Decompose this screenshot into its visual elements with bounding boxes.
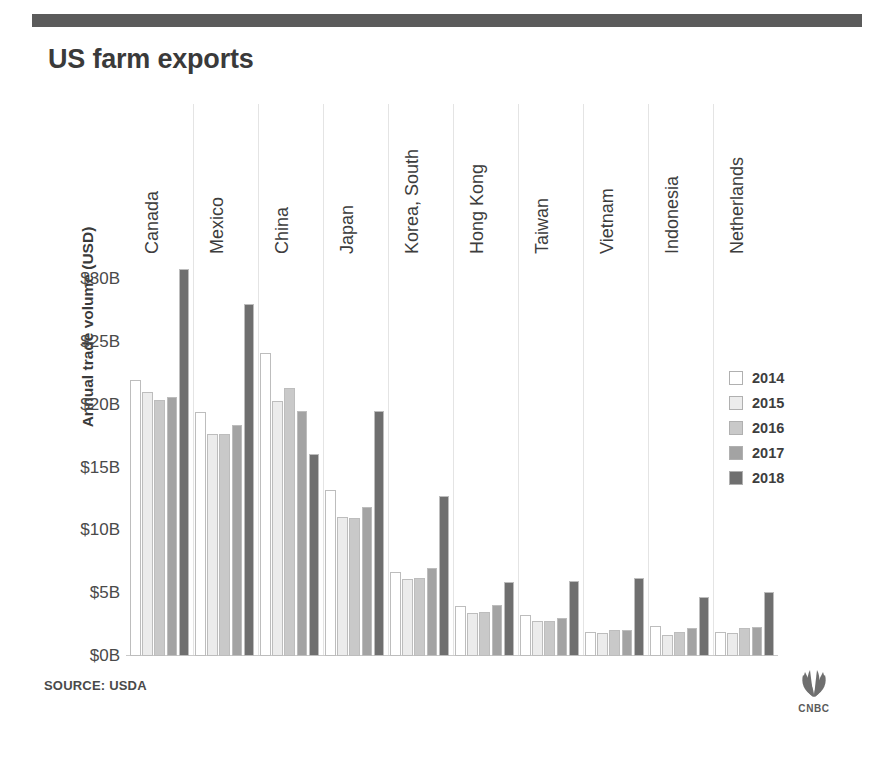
bar-group bbox=[453, 254, 518, 656]
bar bbox=[337, 517, 348, 656]
category-label: Vietnam bbox=[597, 104, 617, 254]
bar bbox=[272, 401, 283, 656]
bar bbox=[687, 628, 698, 656]
bar bbox=[309, 454, 320, 656]
category-label: Hong Kong bbox=[467, 104, 487, 254]
bar bbox=[674, 632, 685, 656]
bar bbox=[622, 630, 633, 656]
legend-label: 2016 bbox=[752, 420, 784, 436]
bar bbox=[699, 597, 710, 656]
bar-group bbox=[388, 254, 453, 656]
bar-group bbox=[518, 254, 583, 656]
bar bbox=[142, 392, 153, 656]
bar bbox=[325, 490, 336, 656]
legend-swatch bbox=[729, 396, 743, 410]
y-tick-label: $10B bbox=[46, 520, 120, 540]
bar bbox=[167, 397, 178, 656]
legend-swatch bbox=[729, 371, 743, 385]
bar bbox=[650, 626, 661, 656]
category-label: Taiwan bbox=[532, 104, 552, 254]
bar bbox=[297, 411, 308, 656]
bar bbox=[154, 400, 165, 656]
bar bbox=[244, 304, 255, 656]
legend-label: 2015 bbox=[752, 395, 784, 411]
bar bbox=[414, 578, 425, 656]
bar bbox=[727, 633, 738, 656]
bar bbox=[390, 572, 401, 656]
legend-swatch bbox=[729, 446, 743, 460]
bar bbox=[764, 592, 775, 656]
legend-item: 2015 bbox=[729, 392, 849, 414]
bar-group bbox=[323, 254, 388, 656]
bar-group bbox=[583, 254, 648, 656]
legend-item: 2017 bbox=[729, 442, 849, 464]
bar bbox=[427, 568, 438, 656]
bar bbox=[520, 615, 531, 656]
bar bbox=[544, 621, 555, 656]
bar-group bbox=[128, 254, 193, 656]
y-tick-label: $30B bbox=[46, 269, 120, 289]
bar bbox=[284, 388, 295, 656]
category-label: Japan bbox=[337, 104, 357, 254]
bar bbox=[609, 630, 620, 656]
bar bbox=[569, 581, 580, 656]
legend-item: 2014 bbox=[729, 367, 849, 389]
y-axis-ticks: $0B$5B$10B$15B$20B$25B$30B bbox=[40, 254, 120, 656]
legend-label: 2018 bbox=[752, 470, 784, 486]
bar bbox=[492, 605, 503, 657]
category-label: Mexico bbox=[207, 104, 227, 254]
bar-group bbox=[648, 254, 713, 656]
bar bbox=[532, 621, 543, 656]
y-tick-label: $5B bbox=[46, 583, 120, 603]
category-label: Indonesia bbox=[662, 104, 682, 254]
bar bbox=[504, 582, 515, 656]
bar bbox=[179, 269, 190, 656]
legend-swatch bbox=[729, 421, 743, 435]
chart-title: US farm exports bbox=[48, 44, 254, 75]
bar bbox=[467, 613, 478, 656]
bar bbox=[634, 578, 645, 656]
bar bbox=[219, 434, 230, 656]
bar bbox=[662, 635, 673, 656]
cnbc-peacock-logo: CNBC bbox=[786, 668, 842, 712]
y-tick-label: $0B bbox=[46, 646, 120, 666]
legend: 20142015201620172018 bbox=[729, 367, 849, 492]
y-tick-label: $20B bbox=[46, 395, 120, 415]
bar bbox=[597, 633, 608, 656]
source-note: SOURCE: USDA bbox=[44, 678, 147, 693]
category-label: China bbox=[272, 104, 292, 254]
bar bbox=[455, 606, 466, 656]
legend-label: 2017 bbox=[752, 445, 784, 461]
legend-item: 2018 bbox=[729, 467, 849, 489]
bar bbox=[739, 628, 750, 656]
bar bbox=[557, 618, 568, 656]
category-label: Netherlands bbox=[727, 104, 747, 254]
legend-swatch bbox=[729, 471, 743, 485]
bar bbox=[130, 380, 141, 656]
bars-region bbox=[128, 254, 778, 656]
chart-page: US farm exports Annual trade volume (USD… bbox=[0, 0, 894, 759]
y-tick-label: $15B bbox=[46, 458, 120, 478]
bar bbox=[479, 612, 490, 656]
header-rule bbox=[32, 14, 862, 27]
legend-label: 2014 bbox=[752, 370, 784, 386]
bar-group bbox=[193, 254, 258, 656]
cnbc-wordmark: CNBC bbox=[786, 703, 842, 714]
bar bbox=[439, 496, 450, 656]
bar bbox=[374, 411, 385, 656]
plot-area: CanadaMexicoChinaJapanKorea, SouthHong K… bbox=[128, 104, 778, 656]
bar bbox=[195, 412, 206, 656]
y-tick-label: $25B bbox=[46, 332, 120, 352]
bar bbox=[207, 434, 218, 656]
bar bbox=[362, 507, 373, 656]
bar bbox=[260, 353, 271, 656]
category-label: Canada bbox=[142, 104, 162, 254]
category-label: Korea, South bbox=[402, 104, 422, 254]
bar bbox=[752, 627, 763, 656]
bar bbox=[232, 425, 243, 656]
legend-item: 2016 bbox=[729, 417, 849, 439]
bar bbox=[585, 632, 596, 656]
bar bbox=[349, 518, 360, 656]
bar bbox=[715, 632, 726, 656]
bar bbox=[402, 579, 413, 656]
